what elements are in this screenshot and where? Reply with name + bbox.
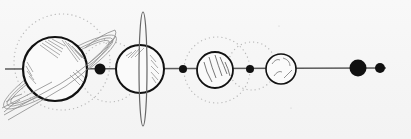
small-planet — [266, 54, 296, 84]
planets-drawing — [0, 0, 411, 139]
planet-illustration: Hand-drawn planets aligned on a line — [0, 0, 411, 139]
moon-dot-4 — [375, 63, 385, 73]
moon-dot-3 — [246, 65, 254, 73]
ringed-planet-vertical — [116, 12, 164, 126]
dark-planet — [350, 60, 367, 77]
striped-planet — [197, 52, 233, 88]
moon-dot-2 — [179, 65, 187, 73]
ringed-planet-large — [23, 37, 87, 101]
moon-dot-1 — [95, 64, 106, 75]
